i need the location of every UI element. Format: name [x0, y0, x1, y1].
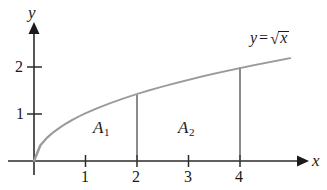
x-tick-label-3: 3: [184, 169, 192, 185]
x-tick-label-4: 4: [235, 169, 243, 185]
x-axis-arrowhead: [297, 156, 309, 167]
sqrt-curve: [34, 58, 290, 161]
graph-canvas: [0, 0, 327, 190]
y-tick-label-1: 1: [16, 106, 24, 122]
curve-equation-label: y=√x: [250, 30, 288, 46]
region-label-a1-subscript: 1: [104, 126, 110, 138]
region-label-a2-subscript: 2: [189, 126, 195, 138]
equation-lhs: y: [250, 29, 257, 46]
radical-expression: √x: [270, 30, 288, 46]
region-label-a1-base: A: [93, 118, 103, 137]
y-axis-arrowhead: [29, 22, 40, 34]
x-tick-label-2: 2: [132, 169, 140, 185]
radical-sign-icon: √: [270, 31, 279, 47]
radical-overbar: [278, 31, 289, 32]
x-axis-label: x: [312, 152, 320, 169]
equation-operator: =: [259, 29, 268, 46]
y-tick-label-2: 2: [15, 59, 23, 75]
math-figure: y x 2 1 1 2 3 4 A1 A2 y=√x: [0, 0, 327, 190]
region-label-a1: A1: [93, 119, 109, 138]
region-label-a2: A2: [178, 119, 194, 138]
y-axis-label: y: [28, 4, 36, 21]
region-label-a2-base: A: [178, 118, 188, 137]
x-tick-label-1: 1: [81, 169, 89, 185]
